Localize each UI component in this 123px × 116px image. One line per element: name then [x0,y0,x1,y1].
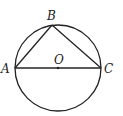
geometry-diagram: A B C O [0,0,123,116]
label-a: A [0,62,10,76]
label-b: B [46,9,56,23]
center-point-o [57,67,59,69]
label-c: C [104,62,113,76]
label-o: O [54,53,64,67]
